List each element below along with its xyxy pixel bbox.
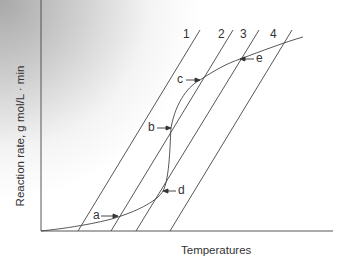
point-label-e: e xyxy=(256,51,263,65)
line-4 xyxy=(170,30,292,231)
line-1 xyxy=(78,30,200,231)
line-2 xyxy=(111,30,233,231)
x-axis-label: Temperatures xyxy=(181,244,251,256)
point-label-a: a xyxy=(93,208,100,222)
point-label-c: c xyxy=(177,72,183,86)
y-axis-label: Reaction rate, g mol/L · min xyxy=(14,36,26,236)
rate-curve xyxy=(41,37,303,231)
point-label-b: b xyxy=(148,120,155,134)
line-label-4: 4 xyxy=(270,27,277,41)
line-label-3: 3 xyxy=(240,27,247,41)
line-label-2: 2 xyxy=(218,27,225,41)
point-label-d: d xyxy=(178,183,185,197)
diagram-canvas xyxy=(0,0,347,269)
line-label-1: 1 xyxy=(183,27,190,41)
